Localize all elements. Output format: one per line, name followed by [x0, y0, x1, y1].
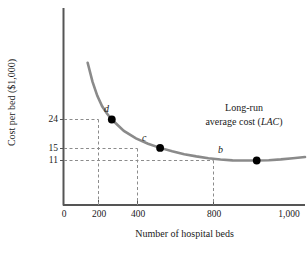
- data-point-label-c: c: [142, 133, 146, 143]
- long-run-average-cost-chart: Cost per bed ($1,000) 24 15 11 0 200 400…: [0, 0, 308, 253]
- x-tick-label-1000: 1,000: [272, 210, 306, 220]
- data-point-marker-d: [108, 116, 116, 124]
- lac-annotation: Long-run average cost (LAC): [185, 101, 303, 128]
- data-point-label-d: d: [104, 104, 109, 114]
- x-tick-label-0: 0: [57, 210, 71, 220]
- lac-annotation-suffix: ): [279, 116, 282, 127]
- y-axis-title-text: Cost per bed ($1,000): [7, 59, 18, 146]
- data-point-label-b: b: [218, 145, 223, 155]
- data-point-marker-b: [253, 157, 261, 165]
- lac-annotation-line1: Long-run: [225, 102, 263, 113]
- x-axis-title: Number of hospital beds: [63, 228, 306, 239]
- data-point-marker-c: [156, 144, 164, 152]
- x-tick-label-400: 400: [124, 210, 152, 220]
- y-tick-label-11: 11: [40, 156, 58, 166]
- y-tick-label-24: 24: [40, 115, 58, 125]
- lac-annotation-italic: LAC: [261, 116, 279, 127]
- y-tick-label-15: 15: [40, 144, 58, 154]
- x-tick-label-200: 200: [85, 210, 113, 220]
- lac-annotation-prefix: average cost (: [205, 116, 261, 127]
- x-tick-label-800: 800: [200, 210, 228, 220]
- y-axis-title: Cost per bed ($1,000): [0, 0, 24, 205]
